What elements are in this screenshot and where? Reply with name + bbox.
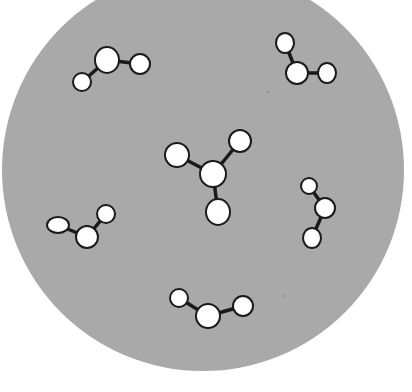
atom <box>76 226 98 248</box>
speck <box>284 295 286 297</box>
atom <box>318 63 336 83</box>
atom <box>315 198 335 218</box>
atom <box>233 296 253 316</box>
atom <box>206 199 230 225</box>
atom <box>301 178 317 194</box>
atom <box>276 33 294 53</box>
atom <box>200 161 226 187</box>
atom <box>73 73 91 91</box>
atom <box>97 205 115 223</box>
atom <box>196 304 220 328</box>
atom <box>130 54 150 74</box>
particle-diagram <box>0 0 412 392</box>
atom <box>165 143 189 167</box>
atom <box>286 62 308 84</box>
atom <box>229 130 251 152</box>
atom <box>170 289 188 307</box>
speck <box>267 91 269 93</box>
atom <box>303 228 321 248</box>
atom <box>95 47 119 73</box>
atom <box>47 217 69 233</box>
